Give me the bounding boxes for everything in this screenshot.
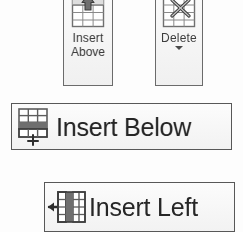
insert-above-caption-line2: Above <box>71 45 105 59</box>
insert-below-button[interactable]: Insert Below <box>11 103 232 150</box>
table-insert-row-below-icon <box>12 107 56 147</box>
delete-caption: Delete <box>161 31 197 45</box>
insert-left-button[interactable]: Insert Left <box>44 182 235 232</box>
chevron-down-icon[interactable] <box>175 46 183 50</box>
insert-above-button[interactable]: Insert Above <box>63 0 113 86</box>
delete-button[interactable]: Delete <box>155 0 203 86</box>
toolbar-canvas: Insert Above De <box>0 0 243 232</box>
table-delete-icon <box>161 0 197 31</box>
table-insert-column-left-icon <box>45 188 89 226</box>
insert-below-label: Insert Below <box>56 113 191 141</box>
insert-left-label: Insert Left <box>89 193 198 221</box>
insert-above-caption-line1: Insert <box>72 31 103 45</box>
table-insert-row-above-icon <box>70 0 106 31</box>
